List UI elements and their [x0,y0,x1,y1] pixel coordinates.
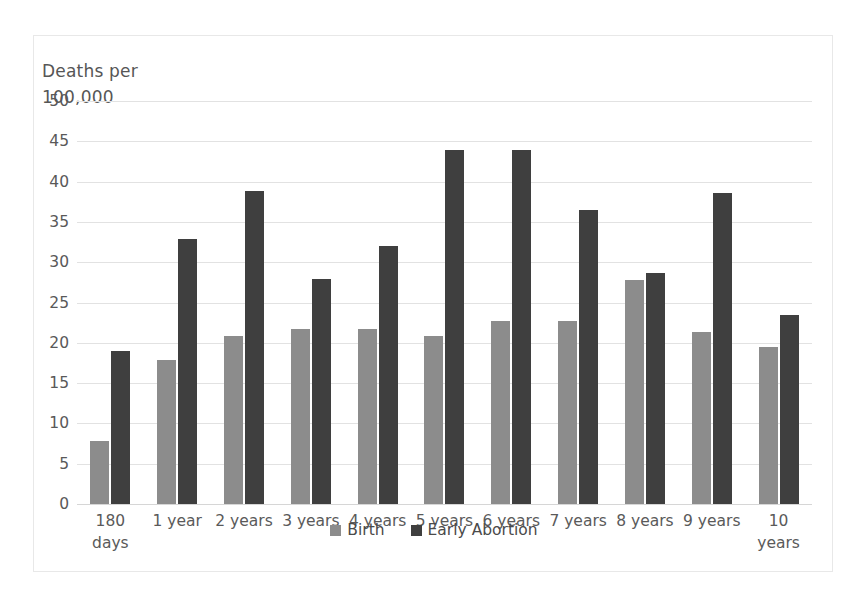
bar-birth[interactable] [358,329,377,504]
bar-early-abortion[interactable] [312,279,331,504]
bar-early-abortion[interactable] [245,191,264,504]
x-axis: 180 days1 year2 years3 years4 years5 yea… [77,510,812,572]
legend-item-birth[interactable]: Birth [330,521,384,539]
y-axis-tick-label: 35 [37,213,69,231]
bar-birth[interactable] [291,329,310,504]
bar-early-abortion[interactable] [713,193,732,504]
legend-swatch-icon [330,525,341,536]
bar-birth[interactable] [625,280,644,504]
y-axis-tick-label: 0 [37,495,69,513]
bar-birth[interactable] [90,441,109,504]
gridline [77,504,812,505]
bar-group [344,101,411,504]
chart-container: Deaths per 100,000 05101520253035404550 … [33,35,833,572]
bar-early-abortion[interactable] [379,246,398,504]
bar-early-abortion[interactable] [646,273,665,504]
bar-group [77,101,144,504]
y-axis-tick-label: 10 [37,414,69,432]
bar-birth[interactable] [491,321,510,504]
y-axis-tick-label: 15 [37,374,69,392]
bar-birth[interactable] [759,347,778,504]
bar-group [144,101,211,504]
legend-label: Early Abortion [428,521,538,539]
bar-birth[interactable] [224,336,243,504]
bar-early-abortion[interactable] [780,315,799,504]
y-axis-tick-label: 20 [37,334,69,352]
bar-group [478,101,545,504]
bar-early-abortion[interactable] [111,351,130,504]
bar-birth[interactable] [157,360,176,504]
legend-item-early-abortion[interactable]: Early Abortion [411,521,538,539]
y-axis-tick-label: 5 [37,455,69,473]
bar-group [211,101,278,504]
bar-group [612,101,679,504]
y-axis-tick-label: 25 [37,294,69,312]
legend-swatch-icon [411,525,422,536]
bar-birth[interactable] [692,332,711,504]
y-axis-tick-label: 30 [37,253,69,271]
bar-birth[interactable] [424,336,443,504]
bar-group [277,101,344,504]
bars-layer [77,101,812,504]
bar-group [411,101,478,504]
y-axis-tick-label: 45 [37,132,69,150]
bar-group [745,101,812,504]
bar-early-abortion[interactable] [445,150,464,504]
bar-group [545,101,612,504]
plot-area: 05101520253035404550 [77,101,812,504]
bar-birth[interactable] [558,321,577,504]
y-axis-tick-label: 50 [37,92,69,110]
y-axis-tick-label: 40 [37,173,69,191]
legend-label: Birth [347,521,384,539]
bar-early-abortion[interactable] [178,239,197,504]
bar-early-abortion[interactable] [579,210,598,504]
bar-early-abortion[interactable] [512,150,531,504]
bar-group [678,101,745,504]
chart-legend: BirthEarly Abortion [34,521,834,539]
